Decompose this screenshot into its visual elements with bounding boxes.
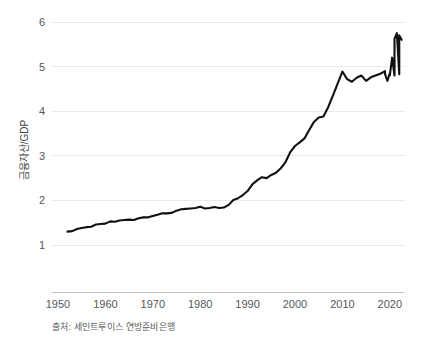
x-tick-label: 1960 [93,298,117,310]
chart-figure: 123456 19501960197019801990200020102020 … [0,0,421,340]
y-tick-label: 4 [39,105,45,117]
x-tick-label: 1950 [46,298,70,310]
y-tick-label: 3 [39,150,45,162]
y-axis-title: 금융자산/GDP [19,119,30,180]
x-tick-label: 1970 [141,298,165,310]
x-tick-label: 1980 [188,298,212,310]
y-axis-tick-labels: 123456 [39,16,45,251]
x-tick-label: 2000 [283,298,307,310]
y-tick-label: 1 [39,239,45,251]
y-tick-label: 6 [39,16,45,28]
x-tick-label: 2020 [378,298,402,310]
gridlines-group [52,22,406,245]
x-tick-label: 2010 [330,298,354,310]
y-tick-label: 5 [39,61,45,73]
data-series-line [67,33,401,231]
y-tick-label: 2 [39,194,45,206]
x-tick-label: 1990 [235,298,259,310]
source-note: 출처: 세인트루이스 연방준비은행 [52,320,175,333]
line-chart-canvas: 123456 19501960197019801990200020102020 … [0,0,421,340]
x-axis-tick-labels: 19501960197019801990200020102020 [46,298,402,310]
